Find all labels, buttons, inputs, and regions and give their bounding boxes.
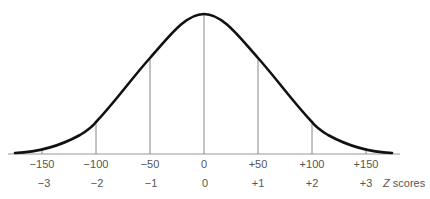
raw-label: +50	[249, 158, 268, 170]
raw-label: +150	[354, 158, 379, 170]
raw-label: −50	[141, 158, 160, 170]
z-label: +2	[306, 177, 319, 189]
z-scores-title: Z scores	[382, 177, 426, 189]
z-label: +1	[252, 177, 265, 189]
z-label: −3	[38, 177, 51, 189]
z-label: −1	[145, 177, 158, 189]
z-label: +3	[360, 177, 373, 189]
raw-label: −150	[30, 158, 55, 170]
raw-label: +100	[300, 158, 325, 170]
raw-label: −100	[84, 158, 109, 170]
raw-label: 0	[201, 158, 207, 170]
z-title-rest: scores	[390, 177, 426, 189]
z-label: −2	[91, 177, 104, 189]
normal-curve-chart: −150 −100 −50 0 +50 +100 +150 −3 −2 −1 0…	[0, 0, 430, 199]
z-label: 0	[202, 177, 208, 189]
